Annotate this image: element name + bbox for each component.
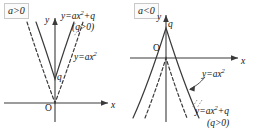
curve-condition-solid-right: (q>0) <box>207 119 229 129</box>
x-axis-label-left: x <box>111 101 115 111</box>
curve-label-dashed-left-exp: 2 <box>94 50 97 57</box>
math-figure: a>0 y x O q y=ax2+q (q> <box>0 0 256 134</box>
y-axis-label-right: y <box>157 13 161 23</box>
curve-label-dashed-left: y=ax2 <box>74 53 97 63</box>
curve-label-solid-left-main: y=ax <box>61 11 81 21</box>
q-label-right: q <box>168 20 173 30</box>
y-axis-label-left: y <box>45 16 49 26</box>
curve-label-solid-right-tail: +q <box>218 106 229 116</box>
curve-label-dashed-right-exp: 2 <box>222 67 225 74</box>
x-axis-right <box>130 55 238 61</box>
x-axis-label-right: x <box>241 57 245 67</box>
panel-a-positive: a>0 y x O q y=ax2+q (q> <box>0 0 128 134</box>
y-axis-left <box>52 18 58 122</box>
origin-label-right: O <box>153 44 160 54</box>
curve-label-solid-left: y=ax2+q <box>61 12 95 22</box>
panel-a-negative: a<0 y x O q <box>128 0 256 134</box>
origin-label-left: O <box>45 104 52 114</box>
curve-label-dashed-left-main: y=ax <box>74 52 94 62</box>
right-panel-graph <box>128 0 256 134</box>
curve-label-dashed-right-main: y=ax <box>202 69 222 79</box>
curve-condition-solid-left: (q>0) <box>72 23 94 33</box>
curve-label-solid-right-main: y=ax <box>195 106 215 116</box>
y-axis-right <box>163 15 169 122</box>
x-axis-left <box>4 100 108 106</box>
curve-label-solid-left-tail: +q <box>84 11 95 21</box>
curve-label-solid-right: y=ax2+q <box>195 107 229 117</box>
q-label-left: q <box>57 73 62 83</box>
curve-label-dashed-right: y=ax2 <box>202 70 225 80</box>
